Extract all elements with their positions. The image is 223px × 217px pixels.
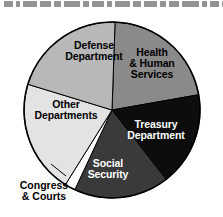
slice-label-line: Services — [131, 68, 174, 80]
slice-label-line: Health — [136, 46, 168, 58]
slice-label-line: Department — [65, 50, 123, 62]
slice-label-line: Departments — [34, 109, 97, 121]
slice-callout-label: Congress& Courts — [20, 179, 69, 202]
slice-label-line: Security — [88, 168, 129, 180]
slice-label-line: Social — [93, 157, 124, 169]
slice-label-line: Treasury — [135, 118, 178, 130]
slice-label-line: Congress — [20, 179, 69, 191]
slice-label: TreasuryDepartment — [127, 118, 185, 141]
slice-label-line: Defense — [74, 39, 114, 51]
slice-label-line: & Human — [129, 57, 174, 69]
slice-label: SocialSecurity — [88, 157, 129, 180]
slice-label-line: Department — [127, 129, 185, 141]
slice-label-line: & Courts — [22, 190, 66, 202]
pie-chart-figure: Health& HumanServicesTreasuryDepartmentS… — [0, 0, 223, 217]
budget-pie-chart: Health& HumanServicesTreasuryDepartmentS… — [0, 0, 223, 217]
slice-label-line: Other — [52, 98, 80, 110]
